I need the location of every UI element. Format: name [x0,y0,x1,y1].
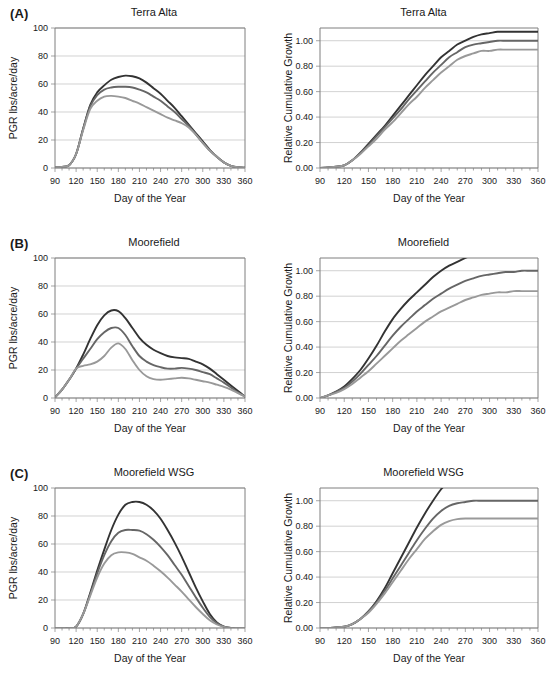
chart-title-c-right: Moorefield WSG [280,466,557,478]
x-tick-label: 360 [237,406,252,416]
x-axis-title: Day of the Year [114,192,186,204]
x-tick-label: 150 [361,636,376,646]
y-tick-label: 0 [43,163,48,173]
series-group [55,502,245,628]
x-tick-label: 360 [530,636,545,646]
x-tick-label: 330 [506,636,521,646]
chart-canvas-b-left: 0204060801009012015018021024027030033036… [0,230,280,460]
chart-svg: 0204060801009012015018021024027030033036… [0,0,280,230]
x-tick-label: 300 [195,636,210,646]
series-group [55,310,245,397]
panel-row-b: (B) Moorefield 0204060801009012015018021… [0,230,557,460]
x-tick-label: 90 [315,406,325,416]
y-tick-label: 40 [38,567,48,577]
x-tick-label: 330 [506,406,521,416]
y-tick-label: 0 [43,623,48,633]
y-tick-label: 20 [38,135,48,145]
chart-title-c-left: Moorefield WSG [0,466,280,478]
x-tick-label: 270 [458,176,473,186]
y-tick-label: 0.20 [295,368,313,378]
y-tick-label: 0.60 [295,317,313,327]
x-tick-label: 240 [434,176,449,186]
y-tick-label: 0.40 [295,342,313,352]
y-tick-label: 20 [38,595,48,605]
x-tick-label: 210 [132,176,147,186]
chart-title-a-left: Terra Alta [0,6,280,18]
y-axis-title: PGR lbs/acre/day [7,56,19,139]
y-tick-label: 0.80 [295,61,313,71]
y-axis-title: Relative Cumulative Growth [282,33,294,163]
x-tick-label: 90 [315,636,325,646]
chart-title-a-right: Terra Alta [280,6,557,18]
y-tick-label: 60 [38,309,48,319]
x-tick-label: 240 [153,176,168,186]
chart-canvas-c-right: 0.000.200.400.600.801.009012015018021024… [280,460,557,690]
x-tick-label: 330 [216,406,231,416]
x-tick-label: 150 [90,636,105,646]
chart-svg: 0204060801009012015018021024027030033036… [0,460,280,690]
y-axis-title: PGR lbs/acre/day [7,286,19,369]
x-tick-label: 210 [132,406,147,416]
chart-c-right: Moorefield WSG 0.000.200.400.600.801.009… [280,460,557,690]
x-axis-title: Day of the Year [114,422,186,434]
y-tick-label: 0.80 [295,521,313,531]
series-line-medium [320,41,538,168]
x-tick-label: 360 [237,176,252,186]
series-line-low [320,519,538,629]
series-line-high [55,502,245,628]
figure-container: (A) Terra Alta 0204060801009012015018021… [0,0,557,692]
chart-svg: 0.000.200.400.600.801.009012015018021024… [280,0,557,230]
y-tick-label: 0.60 [295,87,313,97]
panel-row-c: (C) Moorefield WSG 020406080100901201501… [0,460,557,692]
x-tick-label: 360 [530,406,545,416]
chart-svg: 0.000.200.400.600.801.009012015018021024… [280,230,557,460]
x-tick-label: 120 [69,636,84,646]
x-tick-label: 120 [337,176,352,186]
x-tick-label: 240 [434,636,449,646]
chart-svg: 0204060801009012015018021024027030033036… [0,230,280,460]
y-tick-label: 80 [38,281,48,291]
series-group [55,76,245,168]
series-line-low [55,96,245,168]
x-tick-label: 270 [174,406,189,416]
y-tick-label: 0.00 [295,163,313,173]
y-axis-title: Relative Cumulative Growth [282,263,294,393]
x-tick-label: 270 [174,636,189,646]
x-axis-title: Day of the Year [393,652,465,664]
x-tick-label: 120 [69,176,84,186]
chart-a-right: Terra Alta 0.000.200.400.600.801.0090120… [280,0,557,230]
x-tick-label: 120 [69,406,84,416]
x-tick-label: 270 [174,176,189,186]
x-tick-label: 330 [216,176,231,186]
chart-c-left: Moorefield WSG 0204060801009012015018021… [0,460,280,690]
chart-b-right: Moorefield 0.000.200.400.600.801.0090120… [280,230,557,460]
x-tick-label: 180 [385,636,400,646]
x-tick-label: 120 [337,406,352,416]
x-tick-label: 90 [50,636,60,646]
x-tick-label: 240 [153,636,168,646]
y-tick-label: 60 [38,79,48,89]
x-tick-label: 210 [132,636,147,646]
x-tick-label: 300 [482,406,497,416]
x-axis-title: Day of the Year [393,422,465,434]
x-tick-label: 180 [385,176,400,186]
x-tick-label: 240 [153,406,168,416]
series-line-medium [320,501,538,628]
y-tick-label: 0 [43,393,48,403]
series-line-high [320,32,538,168]
chart-title-b-right: Moorefield [280,236,557,248]
x-axis-title: Day of the Year [393,192,465,204]
series-line-low [55,552,245,628]
y-tick-label: 0.80 [295,291,313,301]
x-tick-label: 300 [482,636,497,646]
y-tick-label: 0.20 [295,138,313,148]
x-tick-label: 330 [506,176,521,186]
x-tick-label: 180 [111,176,126,186]
x-tick-label: 270 [458,636,473,646]
x-tick-label: 300 [195,176,210,186]
chart-title-b-left: Moorefield [0,236,280,248]
x-tick-label: 210 [409,636,424,646]
x-tick-label: 150 [361,176,376,186]
x-tick-label: 300 [482,176,497,186]
x-tick-label: 90 [315,176,325,186]
